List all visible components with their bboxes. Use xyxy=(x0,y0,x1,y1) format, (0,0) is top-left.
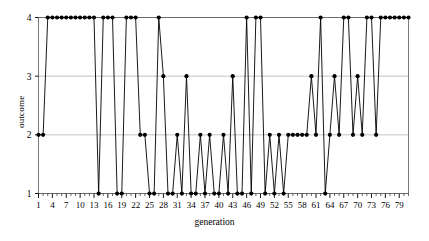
data-point-marker xyxy=(60,15,64,19)
data-point-marker xyxy=(314,133,318,137)
data-point-marker xyxy=(374,133,378,137)
data-point-marker xyxy=(217,191,221,195)
data-point-marker xyxy=(203,191,207,195)
x-tick-label-52: 52 xyxy=(270,200,279,210)
data-point-marker xyxy=(46,15,50,19)
data-point-marker xyxy=(175,133,179,137)
data-point-marker xyxy=(78,15,82,19)
data-point-marker xyxy=(231,74,235,78)
data-point-marker xyxy=(379,15,383,19)
x-tick-label-4: 4 xyxy=(50,200,55,210)
data-point-marker xyxy=(69,15,73,19)
data-point-marker xyxy=(110,15,114,19)
x-tick-label-16: 16 xyxy=(103,200,113,210)
data-point-marker xyxy=(115,191,119,195)
data-point-marker xyxy=(208,133,212,137)
data-point-marker xyxy=(36,133,40,137)
gridlines xyxy=(39,18,409,194)
data-point-marker xyxy=(388,15,392,19)
data-point-marker xyxy=(134,15,138,19)
data-point-marker xyxy=(305,133,309,137)
data-point-marker xyxy=(309,74,313,78)
data-point-marker xyxy=(397,15,401,19)
data-point-marker xyxy=(286,133,290,137)
x-axis-ticks xyxy=(39,194,409,199)
data-point-marker xyxy=(258,15,262,19)
data-point-marker xyxy=(157,15,161,19)
data-point-marker xyxy=(406,15,410,19)
data-point-marker xyxy=(226,191,230,195)
y-axis-ticks xyxy=(35,18,39,194)
data-point-markers xyxy=(36,15,410,195)
data-point-marker xyxy=(240,191,244,195)
data-point-marker xyxy=(337,133,341,137)
x-tick-label-37: 37 xyxy=(201,200,211,210)
data-point-marker xyxy=(221,133,225,137)
x-axis-title: generation xyxy=(0,217,429,227)
data-point-marker xyxy=(277,133,281,137)
x-tick-label-7: 7 xyxy=(64,200,69,210)
data-point-marker xyxy=(402,15,406,19)
data-point-marker xyxy=(263,191,267,195)
x-tick-label-79: 79 xyxy=(395,200,405,210)
data-point-marker xyxy=(194,191,198,195)
data-point-marker xyxy=(295,133,299,137)
x-tick-label-64: 64 xyxy=(325,200,335,210)
data-point-marker xyxy=(147,191,151,195)
data-point-marker xyxy=(184,74,188,78)
y-tick-label-2: 2 xyxy=(27,130,32,140)
data-point-marker xyxy=(50,15,54,19)
line-chart: 1234 14710131619222528313437404346495255… xyxy=(0,0,429,241)
data-point-marker xyxy=(351,133,355,137)
data-point-marker xyxy=(332,74,336,78)
data-point-marker xyxy=(41,133,45,137)
x-tick-label-22: 22 xyxy=(131,200,140,210)
data-point-marker xyxy=(393,15,397,19)
data-point-marker xyxy=(342,15,346,19)
y-tick-label-4: 4 xyxy=(27,13,32,23)
data-point-marker xyxy=(328,133,332,137)
x-tick-label-55: 55 xyxy=(284,200,294,210)
data-point-marker xyxy=(189,191,193,195)
data-point-marker xyxy=(360,133,364,137)
data-point-marker xyxy=(383,15,387,19)
data-point-marker xyxy=(64,15,68,19)
data-point-marker xyxy=(346,15,350,19)
x-tick-label-40: 40 xyxy=(214,200,224,210)
y-axis-tick-labels: 1234 xyxy=(27,13,32,199)
x-tick-label-34: 34 xyxy=(187,200,197,210)
axis-lines xyxy=(39,18,409,194)
y-tick-label-1: 1 xyxy=(27,189,32,199)
x-tick-label-1: 1 xyxy=(36,200,41,210)
x-tick-label-28: 28 xyxy=(159,200,169,210)
data-point-marker xyxy=(124,15,128,19)
data-point-marker xyxy=(249,191,253,195)
x-tick-label-19: 19 xyxy=(117,200,127,210)
data-point-marker xyxy=(272,191,276,195)
data-point-marker xyxy=(83,15,87,19)
x-tick-label-10: 10 xyxy=(76,200,86,210)
data-series-line xyxy=(39,18,409,194)
data-point-marker xyxy=(323,191,327,195)
y-tick-label-3: 3 xyxy=(27,72,32,82)
data-point-marker xyxy=(138,133,142,137)
data-point-marker xyxy=(180,191,184,195)
data-point-marker xyxy=(282,191,286,195)
data-point-marker xyxy=(73,15,77,19)
data-point-marker xyxy=(212,191,216,195)
x-tick-label-61: 61 xyxy=(312,200,321,210)
data-point-marker xyxy=(268,133,272,137)
data-point-marker xyxy=(300,133,304,137)
data-point-marker xyxy=(143,133,147,137)
data-point-marker xyxy=(319,15,323,19)
data-point-marker xyxy=(254,15,258,19)
x-tick-label-76: 76 xyxy=(381,200,391,210)
data-point-marker xyxy=(120,191,124,195)
data-point-marker xyxy=(291,133,295,137)
data-point-marker xyxy=(106,15,110,19)
data-point-marker xyxy=(55,15,59,19)
data-point-marker xyxy=(97,191,101,195)
x-axis-tick-labels: 1471013161922252831343740434649525558616… xyxy=(36,200,404,210)
x-tick-label-73: 73 xyxy=(367,200,377,210)
data-point-marker xyxy=(87,15,91,19)
